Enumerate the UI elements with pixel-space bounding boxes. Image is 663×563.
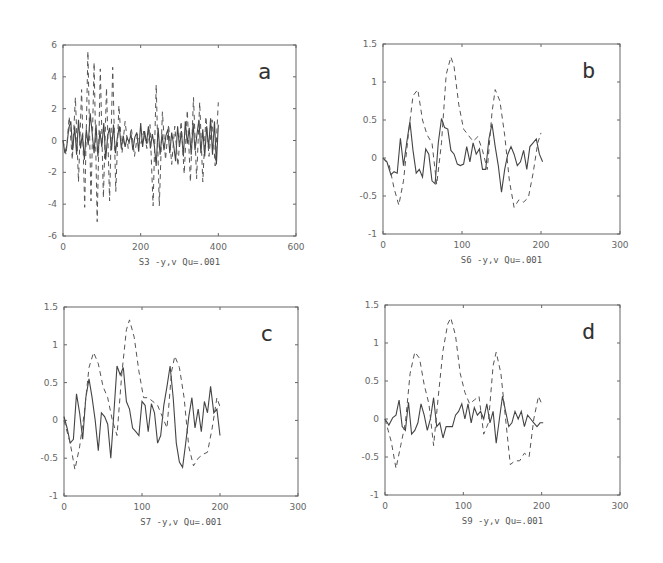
panel-letter: a — [258, 59, 271, 84]
y-tick-label: 1.5 — [44, 302, 58, 312]
x-axis-label: S3 -y,v Qu=.001 — [139, 257, 220, 267]
x-axis-label: S6 -y,v Qu=.001 — [461, 255, 542, 265]
panel-d: 0100200300-1-0.500.511.5S9 -y,v Qu=.001d — [361, 300, 628, 526]
x-tick-label: 300 — [611, 501, 628, 511]
x-axis-label: S9 -y,v Qu=.001 — [462, 516, 543, 526]
x-tick-label: 0 — [380, 240, 386, 250]
y-tick-label: -4 — [48, 199, 57, 209]
y-tick-label: -0.5 — [359, 191, 377, 201]
x-tick-label: 300 — [289, 502, 306, 512]
y-tick-label: 1 — [373, 338, 379, 348]
y-tick-label: -6 — [48, 231, 57, 241]
series-y-solid-line — [63, 113, 218, 166]
x-tick-label: 100 — [133, 502, 150, 512]
x-tick-label: 200 — [532, 240, 549, 250]
panel-letter: d — [582, 319, 595, 344]
y-tick-label: 0 — [51, 136, 57, 146]
y-tick-label: -1 — [370, 490, 379, 500]
y-tick-label: 1.5 — [363, 39, 377, 49]
x-tick-label: 600 — [287, 242, 304, 252]
y-tick-label: 0 — [373, 414, 379, 424]
series-v-dashed-line — [64, 320, 220, 470]
y-tick-label: -0.5 — [40, 453, 58, 463]
x-tick-label: 100 — [455, 501, 472, 511]
panel-letter: c — [260, 321, 273, 346]
x-axis-label: S7 -y,v Qu=.001 — [140, 517, 221, 527]
y-tick-label: 1 — [371, 77, 377, 87]
series-v-dashed-line — [383, 57, 541, 208]
y-tick-label: -1 — [49, 491, 58, 501]
x-tick-label: 100 — [453, 240, 470, 250]
x-tick-label: 400 — [210, 242, 227, 252]
series-y-solid-line — [383, 119, 543, 193]
series-v-dashed-line — [385, 318, 542, 469]
panel-b: 0100200300-1-0.500.511.5S6 -y,v Qu=.001b — [359, 39, 628, 265]
y-tick-label: 0 — [371, 153, 377, 163]
y-tick-label: 0.5 — [363, 115, 377, 125]
panel-a: 0200400600-6-4-20246S3 -y,v Qu=.001a — [48, 40, 305, 267]
panel-c: 0100200300-1-0.500.511.5S7 -y,v Qu=.001c — [40, 302, 306, 527]
y-tick-label: -1 — [368, 229, 377, 239]
y-tick-label: 1.5 — [365, 300, 379, 310]
y-tick-label: 4 — [51, 72, 57, 82]
x-tick-label: 0 — [60, 242, 66, 252]
x-tick-label: 0 — [382, 501, 388, 511]
y-tick-label: -2 — [48, 167, 57, 177]
figure-2x2-line-plots: 0200400600-6-4-20246S3 -y,v Qu=.001a0100… — [0, 0, 663, 563]
series-y-solid-line — [385, 396, 543, 443]
y-tick-label: -0.5 — [361, 452, 379, 462]
y-tick-label: 0.5 — [44, 378, 58, 388]
x-tick-label: 0 — [61, 502, 67, 512]
x-tick-label: 200 — [132, 242, 149, 252]
x-tick-label: 300 — [611, 240, 628, 250]
y-tick-label: 2 — [51, 104, 57, 114]
y-tick-label: 0.5 — [365, 376, 379, 386]
y-tick-label: 1 — [52, 340, 58, 350]
y-tick-label: 0 — [52, 415, 58, 425]
panel-letter: b — [582, 58, 595, 83]
series-v-dashed-line — [63, 51, 218, 221]
y-tick-label: 6 — [51, 40, 57, 50]
x-tick-label: 200 — [211, 502, 228, 512]
x-tick-label: 200 — [533, 501, 550, 511]
